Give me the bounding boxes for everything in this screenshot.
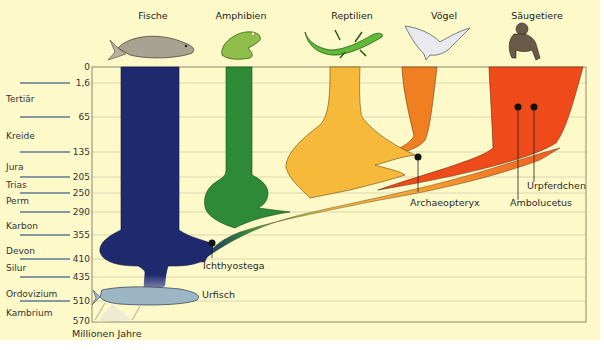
fish-icon (108, 36, 194, 60)
urpferdchen-dot (531, 104, 538, 111)
label-ambolucetus: Ambolucetus (510, 198, 572, 208)
tick-1-6: 1,6 (60, 79, 90, 88)
era-kambrium: Kambrium (6, 309, 52, 318)
tick-0: 0 (60, 63, 90, 72)
era-karbon: Karbon (6, 222, 38, 231)
label-urpferdchen: Urpferdchen (527, 181, 586, 191)
era-devon: Devon (6, 247, 35, 256)
tick-410: 410 (60, 255, 90, 264)
tick-250: 250 (60, 189, 90, 198)
era-silur: Silur (6, 264, 26, 273)
axis-unit-label: Millionen Jahre (72, 329, 142, 339)
era-perm: Perm (6, 197, 29, 206)
tick-355: 355 (60, 231, 90, 240)
tick-135: 135 (60, 148, 90, 157)
tick-65: 65 (60, 113, 90, 122)
label-urfisch: Urfisch (202, 290, 235, 300)
era-ordovizium: Ordovizium (6, 290, 57, 299)
ape-icon (509, 23, 540, 60)
tick-510: 510 (60, 297, 90, 306)
ichthyostega-dot (209, 240, 216, 247)
label-archaeopteryx: Archaeopteryx (410, 198, 480, 208)
reptile-branch (286, 67, 415, 198)
label-ichthyostega: Ichthyostega (203, 261, 265, 271)
frog-icon (222, 32, 261, 59)
tick-290: 290 (60, 208, 90, 217)
urfisch-icon (92, 287, 199, 322)
archaeopteryx-dot (415, 154, 422, 161)
era-jura: Jura (6, 163, 24, 172)
tick-435: 435 (60, 273, 90, 282)
amphibian-branch (204, 67, 290, 228)
ambolucetus-dot (515, 104, 522, 111)
era-tertiaer: Tertiär (6, 95, 34, 104)
bird-icon (405, 26, 470, 60)
evolution-diagram (0, 0, 604, 350)
fish-branch (100, 67, 213, 277)
era-trias: Trias (6, 181, 27, 190)
tick-570: 570 (60, 317, 90, 326)
era-kreide: Kreide (6, 132, 35, 141)
lizard-icon (305, 30, 382, 58)
tick-205: 205 (60, 173, 90, 182)
